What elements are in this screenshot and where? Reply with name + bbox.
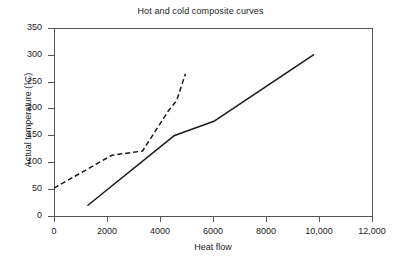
series-line-hot-composite [88,55,314,205]
x-tick-label-4000: 4000 [130,226,190,236]
x-tick-marks [54,216,372,222]
y-tick-label-0: 0 [8,210,42,220]
y-axis-title: Actual temperature (°C) [23,30,33,210]
x-tick-label-0: 0 [24,226,84,236]
plot-canvas [0,0,401,263]
x-tick-label-8000: 8000 [236,226,296,236]
series-line-cold-composite [54,74,185,188]
x-tick-label-10000: 10,000 [289,226,349,236]
chart-figure: Hot and cold composite curves [0,0,401,263]
x-tick-label-12000: 12,000 [342,226,401,236]
x-tick-label-2000: 2000 [77,226,137,236]
y-tick-marks [48,28,54,216]
x-axis-title: Heat flow [54,242,372,252]
x-tick-label-6000: 6000 [183,226,243,236]
